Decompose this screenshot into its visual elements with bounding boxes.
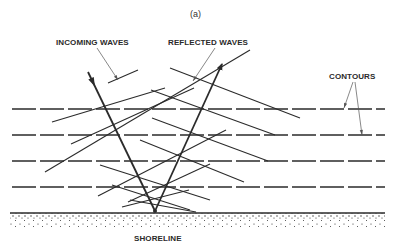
leader-line-incoming — [97, 48, 118, 80]
contour-lines — [12, 109, 385, 187]
shoreline-sand — [10, 213, 385, 228]
leader-arrow-icon — [344, 103, 347, 108]
incoming-waves-label: INCOMING WAVES — [56, 38, 129, 47]
reflected-crest — [151, 90, 275, 135]
reflection-point — [153, 209, 157, 213]
figure-caption: (a) — [190, 9, 201, 19]
contours-label: CONTOURS — [329, 72, 375, 81]
leader-arrow-icon — [360, 130, 363, 135]
reflected-waves-label: REFLECTED WAVES — [168, 38, 248, 47]
reflected-crest — [170, 68, 300, 118]
incoming-wave-crests — [45, 50, 250, 207]
reflected-crest — [100, 165, 210, 200]
leader-line-reflected — [193, 48, 215, 81]
reflected-wave-crests — [100, 68, 300, 212]
reflected-crest — [152, 118, 268, 161]
incoming-arrow-icon — [88, 77, 95, 86]
incoming-crest — [52, 88, 165, 122]
shoreline-label: SHORELINE — [134, 234, 182, 243]
